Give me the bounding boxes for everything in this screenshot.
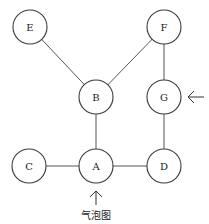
caption-label: 气泡图: [81, 209, 111, 221]
arrow-up-icon: [90, 191, 102, 205]
node-c: C: [12, 149, 46, 183]
node-d-label: D: [160, 161, 168, 172]
node-c-label: C: [25, 161, 33, 172]
node-d: D: [147, 149, 181, 183]
node-b: B: [79, 80, 113, 114]
graph-diagram: E F B G C A D 气泡图: [0, 0, 209, 224]
node-e-label: E: [26, 22, 33, 33]
node-a-label: A: [91, 161, 100, 172]
node-f: F: [147, 10, 181, 44]
node-e: E: [13, 10, 47, 44]
arrow-left-icon: [188, 91, 204, 103]
node-a: A: [79, 149, 113, 183]
node-f-label: F: [161, 22, 168, 33]
node-g: G: [147, 80, 181, 114]
node-g-label: G: [160, 92, 168, 103]
node-b-label: B: [92, 92, 99, 103]
